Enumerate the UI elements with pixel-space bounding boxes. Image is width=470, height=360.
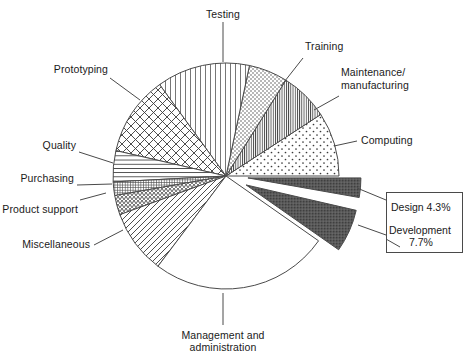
label-maintenance-line1: Maintenance/ — [341, 66, 405, 79]
label-product-support: Product support — [0, 203, 78, 216]
callout-development-value: 7.7% — [409, 236, 433, 249]
label-management-line2: administration — [163, 341, 283, 354]
label-purchasing: Purchasing — [2, 172, 74, 185]
label-training: Training — [305, 40, 343, 53]
callout-design-label: Design 4.3% — [391, 201, 451, 214]
callout-development-label: Development — [389, 224, 451, 237]
label-maintenance-line2: manufacturing — [341, 79, 409, 92]
label-testing: Testing — [193, 8, 253, 21]
label-prototyping: Prototyping — [28, 63, 108, 76]
pie-slices-group — [113, 63, 361, 289]
label-quality: Quality — [18, 139, 76, 152]
label-computing: Computing — [361, 134, 413, 147]
label-management-line1: Management and — [163, 329, 283, 342]
callout-box: Design 4.3% Development 7.7% — [386, 192, 463, 253]
pie-chart-figure: Testing Training Maintenance/ manufactur… — [0, 0, 470, 360]
label-miscellaneous: Miscellaneous — [2, 238, 90, 251]
